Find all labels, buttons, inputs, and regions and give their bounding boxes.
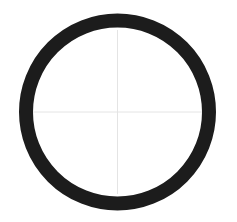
ring-svg — [0, 0, 237, 222]
background — [0, 0, 237, 222]
ring-diagram — [0, 0, 237, 222]
